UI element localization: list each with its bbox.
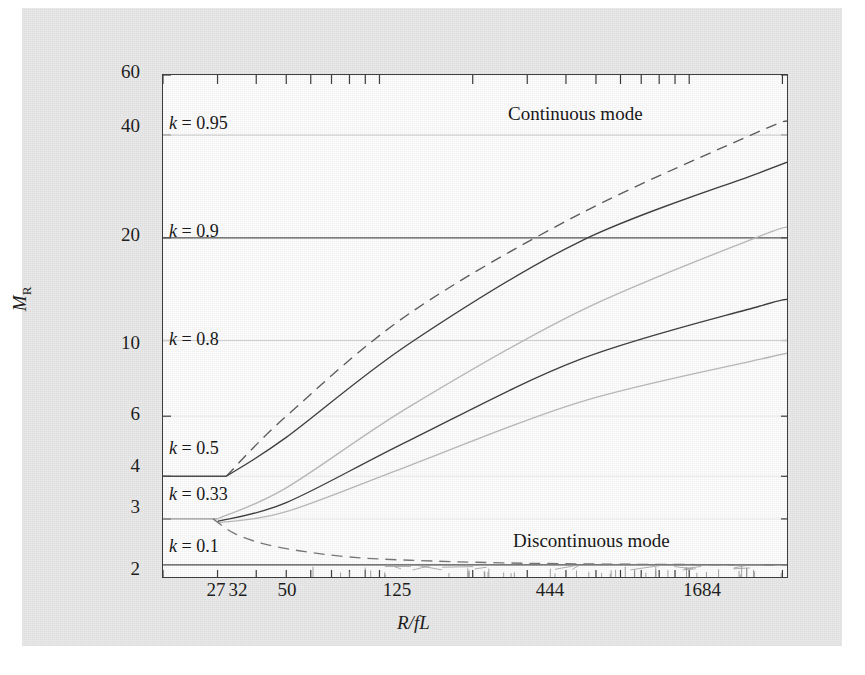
k-symbol: k	[169, 113, 177, 133]
y-axis-title-main: M	[9, 295, 30, 311]
x-tick-label-50: 50	[267, 580, 307, 599]
series-label-k-0-5: k = 0.5	[169, 439, 219, 457]
x-tick-label-125: 125	[372, 580, 422, 599]
curve-boundary-grey-lower	[218, 353, 788, 523]
curve-boundary-dashed-upper	[226, 121, 788, 476]
x-tick-label-1684: 1684	[672, 580, 732, 599]
x-axis-title: R/fL	[397, 612, 430, 634]
curves-group	[163, 121, 788, 565]
y-axis-title: MR	[9, 287, 35, 312]
y-axis-title-sub: R	[19, 287, 34, 296]
y-tick-label-40: 40	[80, 116, 140, 135]
y-tick-label-2: 2	[80, 559, 140, 578]
scan-artifact	[475, 567, 487, 569]
curve-boundary-dashed-descending	[213, 519, 788, 565]
k-value: = 0.5	[177, 438, 219, 458]
scan-noise-group	[313, 565, 781, 577]
series-label-k-0-8: k = 0.8	[169, 330, 219, 348]
k-value: = 0.33	[177, 484, 228, 504]
k-symbol: k	[169, 221, 177, 241]
k-value: = 0.95	[177, 113, 228, 133]
figure-plate: 60 40 20 10 6 4 3 2 MR 27 32 50 125 444 …	[22, 8, 842, 646]
x-tick-label-444: 444	[525, 580, 575, 599]
figure-page: 60 40 20 10 6 4 3 2 MR 27 32 50 125 444 …	[0, 0, 865, 675]
plot-svg	[163, 75, 788, 578]
series-label-k-0-9: k = 0.9	[169, 222, 219, 240]
k-symbol: k	[169, 329, 177, 349]
k-symbol: k	[169, 536, 177, 556]
y-tick-label-6: 6	[80, 404, 140, 423]
annotation-continuous-mode: Continuous mode	[508, 104, 643, 123]
y-tick-label-60: 60	[80, 62, 140, 81]
series-label-k-0-95: k = 0.95	[169, 114, 228, 132]
curve-boundary-solid-upper	[226, 161, 788, 476]
curve-boundary-solid-lower	[218, 299, 788, 521]
k-value: = 0.9	[177, 221, 219, 241]
scan-artifact	[442, 567, 473, 568]
scan-artifact	[395, 567, 401, 569]
k-value: = 0.1	[177, 536, 219, 556]
x-tick-label-32: 32	[218, 580, 258, 599]
y-tick-label-20: 20	[80, 225, 140, 244]
y-tick-label-3: 3	[80, 497, 140, 516]
annotation-discontinuous-mode: Discontinuous mode	[513, 531, 670, 550]
gridlines-group	[163, 135, 788, 519]
y-tick-label-10: 10	[80, 333, 140, 352]
k-symbol: k	[169, 438, 177, 458]
curve-boundary-grey-mid	[218, 227, 788, 519]
plot-canvas: Continuous mode Discontinuous mode k = 0…	[162, 74, 788, 578]
k-symbol: k	[169, 484, 177, 504]
y-tick-label-4: 4	[80, 456, 140, 475]
k-value: = 0.8	[177, 329, 219, 349]
scan-artifact	[734, 568, 750, 569]
series-label-k-0-1: k = 0.1	[169, 537, 219, 555]
series-label-k-0-33: k = 0.33	[169, 485, 228, 503]
